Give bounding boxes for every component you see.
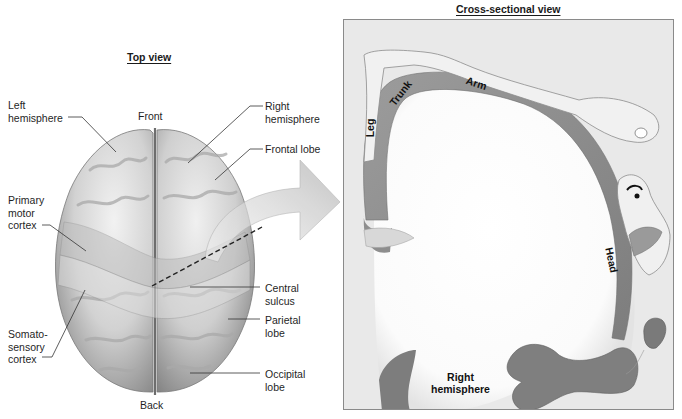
back-label: Back xyxy=(140,399,163,412)
label-occipital-lobe: Occipital lobe xyxy=(265,368,305,393)
region-label-right-hemisphere: Right hemisphere xyxy=(431,371,490,395)
homunculus-thumb xyxy=(635,128,647,138)
cross-section-panel: Leg Trunk Arm Head Right hemisphere xyxy=(343,19,674,410)
label-frontal-lobe: Frontal lobe xyxy=(265,143,320,156)
label-right-hemisphere: Right hemisphere xyxy=(265,100,320,125)
label-left-hemisphere: Left hemisphere xyxy=(8,99,63,124)
cross-section-illustration xyxy=(344,20,674,410)
label-parietal-lobe: Parietal lobe xyxy=(265,314,301,339)
label-somatosensory-cortex: Somato- sensory cortex xyxy=(8,328,48,366)
label-primary-motor-cortex: Primary motor cortex xyxy=(8,194,44,232)
front-label: Front xyxy=(138,110,163,123)
homunculus-tongue xyxy=(644,318,666,348)
label-central-sulcus: Central sulcus xyxy=(265,282,299,307)
body-label-leg: Leg xyxy=(364,119,376,138)
